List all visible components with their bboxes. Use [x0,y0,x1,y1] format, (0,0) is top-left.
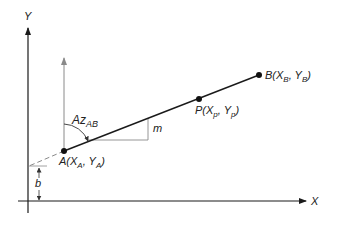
point-B [256,72,262,78]
y-axis-label: Y [24,10,32,22]
point-B-label: B(XB, YB) [265,69,311,84]
point-P-label: P(Xp, Yp) [195,104,240,119]
point-A-label: A(XA, YA) [58,155,105,170]
point-A [61,148,67,154]
intercept-label: b [35,177,41,189]
point-P [196,96,202,102]
line-geometry-diagram: Y X b m AzAB A(XA, YA) P(Xp, Yp) B(XB, Y… [0,0,338,227]
azimuth-label: AzAB [71,113,98,129]
x-axis-label: X [310,195,319,207]
slope-label: m [153,122,162,134]
